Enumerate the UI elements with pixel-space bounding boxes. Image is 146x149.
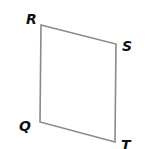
vertex-label-q: Q [19,118,31,134]
vertex-label-t: T [121,137,132,149]
vertex-label-r: R [26,11,37,27]
parallelogram-rstq [40,25,116,142]
vertex-label-s: S [122,38,132,54]
diagram-canvas: R S T Q [0,0,146,149]
